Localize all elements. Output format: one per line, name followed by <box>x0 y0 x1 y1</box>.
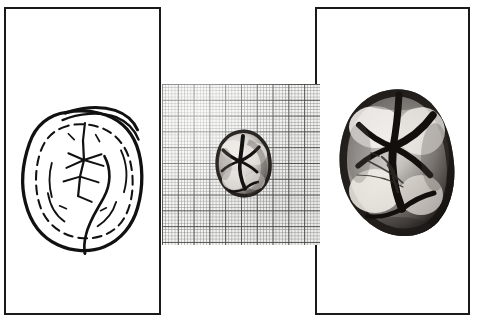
molar-photograph-magnified <box>335 87 457 239</box>
figure-root <box>0 0 478 322</box>
panel-scale-photograph <box>162 84 320 245</box>
panel-magnified-photograph <box>315 7 470 315</box>
molar-line-drawing <box>6 9 159 313</box>
molar-photograph-scaled <box>212 128 274 200</box>
panel-line-drawing <box>4 7 161 315</box>
